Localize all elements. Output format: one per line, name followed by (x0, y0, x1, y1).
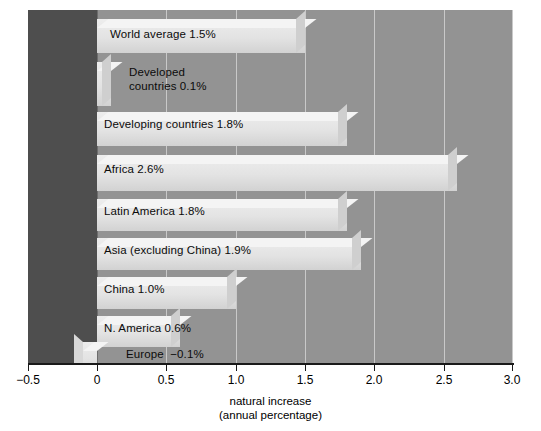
x-ticklabel-0-5: 0.5 (136, 373, 196, 387)
x-tick--0-5 (28, 363, 29, 371)
x-tick-1-5 (305, 363, 306, 371)
x-ticklabel--0-5: −0.5 (0, 373, 58, 387)
bar-label-developed-line1: Developed (129, 66, 185, 80)
x-ticklabel-1-5: 1.5 (275, 373, 335, 387)
bar-label-n-america: N. America 0.6% (104, 322, 191, 336)
x-axis-line (28, 363, 514, 365)
bar-label-developed-line2: countries 0.1% (129, 80, 206, 94)
x-axis-title: natural increase (annual percentage) (0, 394, 541, 422)
plot-area (28, 10, 513, 363)
x-ticklabel-2-5: 2.5 (414, 373, 474, 387)
bar-label-world-average: World average 1.5% (110, 28, 216, 42)
negative-zone (28, 10, 97, 363)
x-ticklabel-1-0: 1.0 (206, 373, 266, 387)
bar-label-asia: Asia (excluding China) 1.9% (104, 244, 251, 258)
bar-label-latin-america: Latin America 1.8% (104, 205, 205, 219)
bar-developed-countries (97, 62, 111, 106)
x-tick-2-5 (444, 363, 445, 371)
x-tick-1-0 (236, 363, 237, 371)
x-tick-3-0 (512, 363, 513, 371)
bar-side-face (102, 54, 111, 106)
x-tick-0-5 (166, 363, 167, 371)
x-ticklabel-0: 0 (67, 373, 127, 387)
x-ticklabel-3-0: 3.0 (482, 373, 541, 387)
bar-europe (83, 342, 97, 363)
x-tick-0 (97, 363, 98, 371)
x-axis-title-line1: natural increase (230, 395, 312, 407)
x-tick-2-0 (374, 363, 375, 371)
bar-label-developing-countries: Developing countries 1.8% (104, 118, 243, 132)
x-ticklabel-2-0: 2.0 (344, 373, 404, 387)
bar-label-china: China 1.0% (104, 283, 164, 297)
x-axis-title-line2: (annual percentage) (0, 408, 541, 422)
bar-label-africa: Africa 2.6% (104, 163, 164, 177)
bar-top-face (97, 19, 317, 28)
gridline-3-0 (512, 10, 513, 363)
bar-chart: World average 1.5% Developed countries 0… (0, 0, 541, 431)
bar-label-europe: Europe −0.1% (126, 348, 204, 362)
